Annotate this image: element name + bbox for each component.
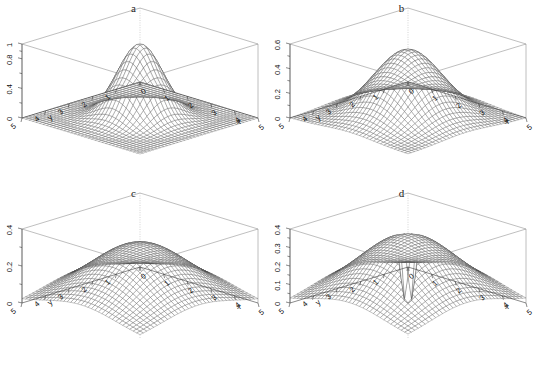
svg-text:0: 0 bbox=[273, 302, 282, 306]
svg-text:5: 5 bbox=[525, 307, 534, 316]
svg-text:4: 4 bbox=[32, 299, 41, 308]
panel-b-plot: 00.20.40.6f(x,y)54321y012345x bbox=[268, 0, 535, 185]
svg-text:0: 0 bbox=[273, 117, 282, 121]
svg-text:0.4: 0.4 bbox=[5, 84, 14, 94]
figure-canvas: a 00.40.81f(x,y)54321y012345x b 00.20.40… bbox=[0, 0, 535, 370]
panel-c-plot: 00.20.4f(x,y)54321y012345x bbox=[0, 185, 267, 370]
svg-text:0.2: 0.2 bbox=[273, 89, 282, 99]
svg-text:0.6: 0.6 bbox=[273, 40, 282, 50]
svg-text:x: x bbox=[237, 117, 241, 126]
panel-b: b 00.20.40.6f(x,y)54321y012345x bbox=[268, 0, 535, 185]
svg-text:0.2: 0.2 bbox=[5, 262, 14, 272]
svg-text:0: 0 bbox=[5, 117, 14, 121]
panel-c: c 00.20.4f(x,y)54321y012345x bbox=[0, 185, 267, 370]
panel-a-plot: 00.40.81f(x,y)54321y012345x bbox=[0, 0, 267, 185]
svg-text:0.4: 0.4 bbox=[5, 225, 14, 235]
panel-d-plot: 00.10.20.30.4f(x,y)54321y012345x bbox=[268, 185, 535, 370]
svg-text:5: 5 bbox=[257, 122, 266, 131]
svg-text:0.1: 0.1 bbox=[273, 280, 282, 290]
svg-text:x: x bbox=[505, 117, 509, 126]
svg-text:5: 5 bbox=[9, 306, 18, 315]
svg-text:x: x bbox=[237, 302, 241, 311]
svg-text:5: 5 bbox=[9, 121, 18, 130]
svg-text:0.2: 0.2 bbox=[273, 262, 282, 272]
svg-text:1: 1 bbox=[5, 43, 14, 47]
svg-text:5: 5 bbox=[277, 306, 286, 315]
svg-text:0.4: 0.4 bbox=[273, 225, 282, 235]
svg-text:5: 5 bbox=[257, 307, 266, 316]
panel-a: a 00.40.81f(x,y)54321y012345x bbox=[0, 0, 267, 185]
svg-text:5: 5 bbox=[525, 122, 534, 131]
svg-text:0.4: 0.4 bbox=[273, 64, 282, 74]
svg-text:x: x bbox=[505, 302, 509, 311]
svg-text:4: 4 bbox=[300, 299, 309, 308]
svg-text:0.8: 0.8 bbox=[5, 55, 14, 65]
svg-text:0.3: 0.3 bbox=[273, 243, 282, 253]
panel-d: d 00.10.20.30.4f(x,y)54321y012345x bbox=[268, 185, 535, 370]
svg-text:y: y bbox=[314, 298, 323, 307]
svg-text:5: 5 bbox=[277, 121, 286, 130]
svg-text:0: 0 bbox=[5, 302, 14, 306]
